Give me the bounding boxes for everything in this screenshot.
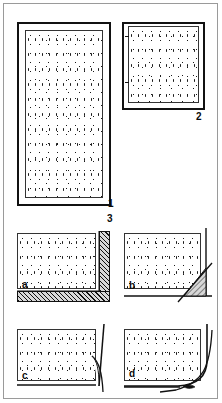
- panel-2-label: 2: [196, 112, 202, 122]
- detail-b-stipple-fill: [124, 233, 201, 289]
- detail-a-stipple-fill: [17, 233, 96, 289]
- detail-c-stipple-fill: [17, 329, 96, 381]
- detail-d-label: d: [129, 369, 135, 379]
- technical-figure: 1 2 3 a: [0, 0, 222, 403]
- detail-d-stipple-fill: [124, 329, 201, 381]
- panel-2-tick-lower: [125, 82, 129, 83]
- detail-a-hatched-horizontal-leg: [17, 291, 110, 302]
- panel-1-stipple-fill: [26, 31, 102, 197]
- detail-a-label: a: [22, 280, 28, 290]
- detail-b-label: b: [129, 281, 135, 291]
- detail-a-hatched-vertical-leg: [99, 231, 110, 296]
- section-3-label: 3: [107, 214, 113, 224]
- detail-c-label: c: [22, 371, 28, 381]
- panel-2-tick-upper: [125, 36, 129, 37]
- panel-2-stipple-fill: [129, 27, 198, 102]
- panel-1-label: 1: [108, 199, 114, 209]
